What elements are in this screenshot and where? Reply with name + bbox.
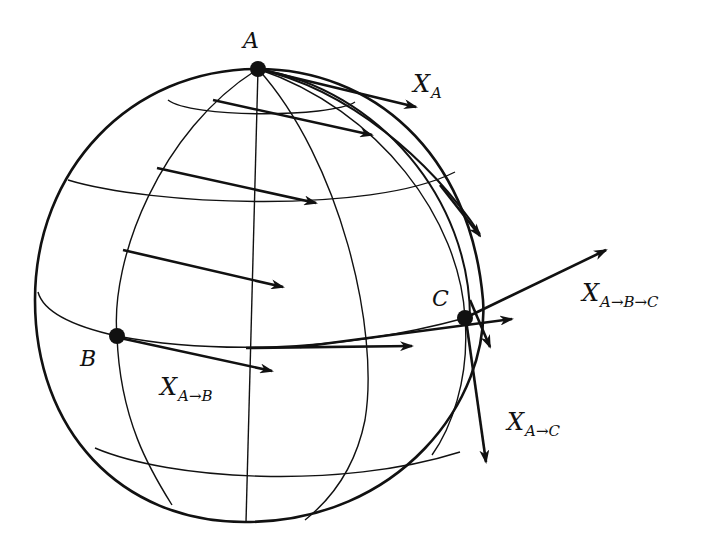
sphere-diagram: A B C XA XA→B XA→C XA→B→C bbox=[0, 0, 713, 545]
label-XA-sub: A bbox=[431, 84, 442, 102]
label-point-C: C bbox=[432, 288, 449, 310]
point-B bbox=[109, 328, 125, 344]
point-C bbox=[457, 310, 473, 326]
label-XAC-sub: A→C bbox=[525, 422, 560, 440]
label-XABC-sub: A→B→C bbox=[600, 293, 658, 311]
longitude-lines bbox=[116, 69, 465, 522]
label-XABC: XA→B→C bbox=[582, 281, 659, 305]
points bbox=[109, 61, 473, 344]
label-XAC: XA→C bbox=[507, 410, 560, 434]
vector-c1 bbox=[440, 185, 480, 236]
sphere-outline bbox=[35, 69, 483, 522]
label-XAB-sub: A→B bbox=[178, 387, 212, 405]
vector-a3 bbox=[123, 250, 283, 287]
label-XAB: XA→B bbox=[160, 375, 213, 399]
vector-XAC bbox=[466, 320, 486, 462]
label-point-A: A bbox=[243, 30, 259, 52]
label-XAB-main: X bbox=[160, 373, 177, 401]
label-XABC-main: X bbox=[582, 279, 599, 307]
label-XA: XA bbox=[413, 72, 442, 96]
vector-XAB bbox=[120, 338, 272, 371]
diagram-canvas bbox=[0, 0, 713, 545]
label-point-B: B bbox=[80, 348, 96, 370]
point-A bbox=[250, 61, 266, 77]
label-XA-main: X bbox=[413, 70, 430, 98]
label-XAC-main: X bbox=[507, 408, 524, 436]
